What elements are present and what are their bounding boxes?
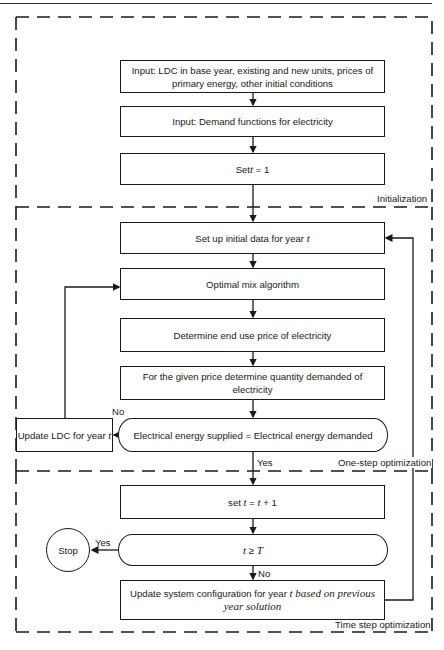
no-label-balance: No bbox=[112, 406, 124, 417]
end-use-price-box: Determine end use price of electricity bbox=[120, 318, 385, 352]
inc-mid: = bbox=[247, 496, 258, 509]
time-step-label: Time step optimization bbox=[335, 619, 431, 630]
update-system-line1: Update system configuration for year t b… bbox=[130, 587, 375, 600]
energy-balance-text: Electrical energy supplied = Electrical … bbox=[133, 430, 372, 441]
update-ldc-text: Update LDC for year bbox=[18, 429, 109, 442]
input-ldc-box: Input: LDC in base year, existing and ne… bbox=[120, 60, 385, 93]
inc-post: + 1 bbox=[261, 496, 277, 509]
input-demand-text: Input: Demand functions for electricity bbox=[172, 115, 333, 128]
stop-text: Stop bbox=[58, 545, 78, 556]
input-ldc-line2: primary energy, other initial conditions bbox=[172, 77, 333, 90]
cond-var2: T bbox=[257, 544, 263, 556]
input-demand-box: Input: Demand functions for electricity bbox=[120, 106, 385, 137]
setup-data-box: Set up initial data for year t bbox=[120, 222, 385, 254]
t-ge-T-decision: t ≥ T bbox=[118, 534, 388, 566]
quantity-demanded-box: For the given price determine quantity d… bbox=[120, 366, 385, 400]
inc-pre: set bbox=[228, 496, 243, 509]
set-t-box: Set t = 1 bbox=[120, 153, 385, 185]
update-system-box: Update system configuration for year t b… bbox=[120, 580, 385, 620]
update-ldc-box: Update LDC for year t bbox=[16, 418, 113, 452]
quantity-demanded-text: For the given price determine quantity d… bbox=[125, 370, 380, 396]
end-use-price-text: Determine end use price of electricity bbox=[174, 329, 332, 342]
optimal-mix-text: Optimal mix algorithm bbox=[206, 278, 299, 291]
update-italic: based on previous bbox=[293, 587, 375, 599]
set-t-post: = 1 bbox=[253, 163, 269, 176]
update-ldc-var: t bbox=[108, 429, 111, 442]
input-ldc-line1: Input: LDC in base year, existing and ne… bbox=[132, 64, 374, 77]
no-label-continue: No bbox=[258, 568, 270, 579]
set-t-pre: Set bbox=[236, 163, 250, 176]
setup-var: t bbox=[307, 232, 310, 245]
update-system-line2: year solution bbox=[224, 600, 282, 613]
one-step-label: One-step optimization bbox=[337, 457, 432, 468]
initialization-label: Initialization bbox=[377, 193, 427, 204]
yes-label-stop: Yes bbox=[95, 537, 111, 548]
optimal-mix-box: Optimal mix algorithm bbox=[120, 268, 385, 300]
stop-terminal: Stop bbox=[46, 528, 90, 572]
cond-op: ≥ bbox=[246, 545, 257, 556]
energy-balance-decision: Electrical energy supplied = Electrical … bbox=[118, 418, 388, 452]
yes-label-balance: Yes bbox=[257, 457, 273, 468]
increment-t-box: set t = t + 1 bbox=[120, 485, 385, 519]
setup-text: Set up initial data for year bbox=[195, 232, 306, 245]
update-pre: Update system configuration for year bbox=[130, 588, 289, 599]
